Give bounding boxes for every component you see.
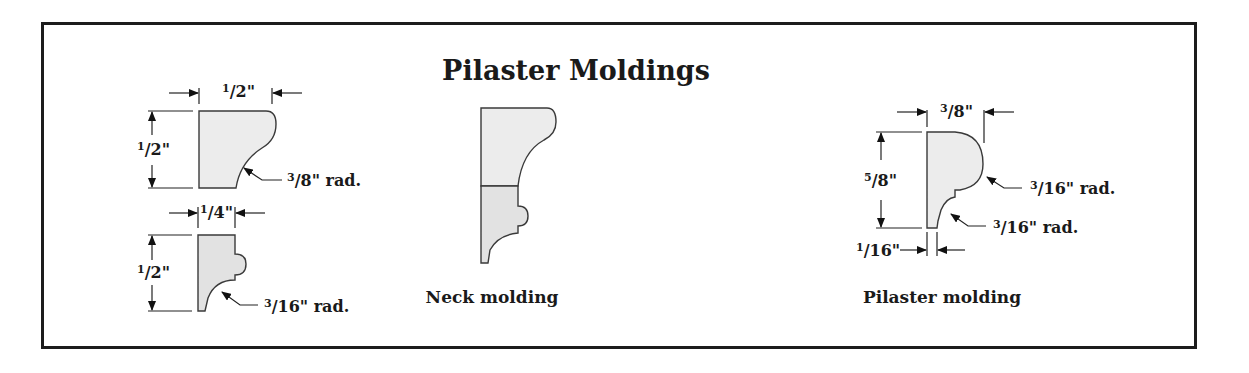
pilaster-lower-radius-label: 3/16" rad. <box>993 218 1078 237</box>
pilaster-width-label: 3/8" <box>940 102 973 121</box>
bead-height-label: 1/2" <box>137 263 170 282</box>
bead-molding-shape <box>198 235 246 311</box>
pilaster-molding-profile: 3/8" 5/8" 3/16" rad. 3/16" rad. 1/16" Pi… <box>856 102 1115 307</box>
cap-height-label: 1/2" <box>137 140 170 159</box>
cap-molding-shape <box>199 111 276 188</box>
bead-radius-label: 3/16" rad. <box>264 297 349 316</box>
neck-molding-profile: Neck molding <box>426 108 559 307</box>
diagram-title: Pilaster Moldings <box>442 55 710 86</box>
pilaster-offset-label: 1/16" <box>856 241 900 260</box>
neck-molding-caption: Neck molding <box>426 287 559 307</box>
pilaster-upper-radius-label: 3/16" rad. <box>1030 179 1115 198</box>
pilaster-moldings-diagram: Pilaster Moldings 1/2" 1/2" 3/8" rad. 1/… <box>0 0 1249 373</box>
pilaster-height-label: 5/8" <box>864 171 897 190</box>
neck-lower-shape <box>481 186 528 263</box>
cap-molding-profile: 1/2" 1/2" 3/8" rad. <box>137 82 361 190</box>
pilaster-molding-caption: Pilaster molding <box>863 287 1021 307</box>
cap-width-label: 1/2" <box>222 82 255 101</box>
bead-molding-profile: 1/4" 1/2" 3/16" rad. <box>137 203 349 316</box>
neck-upper-shape <box>481 108 556 186</box>
cap-radius-label: 3/8" rad. <box>287 171 361 190</box>
pilaster-molding-shape <box>927 132 983 228</box>
bead-width-label: 1/4" <box>200 203 233 222</box>
